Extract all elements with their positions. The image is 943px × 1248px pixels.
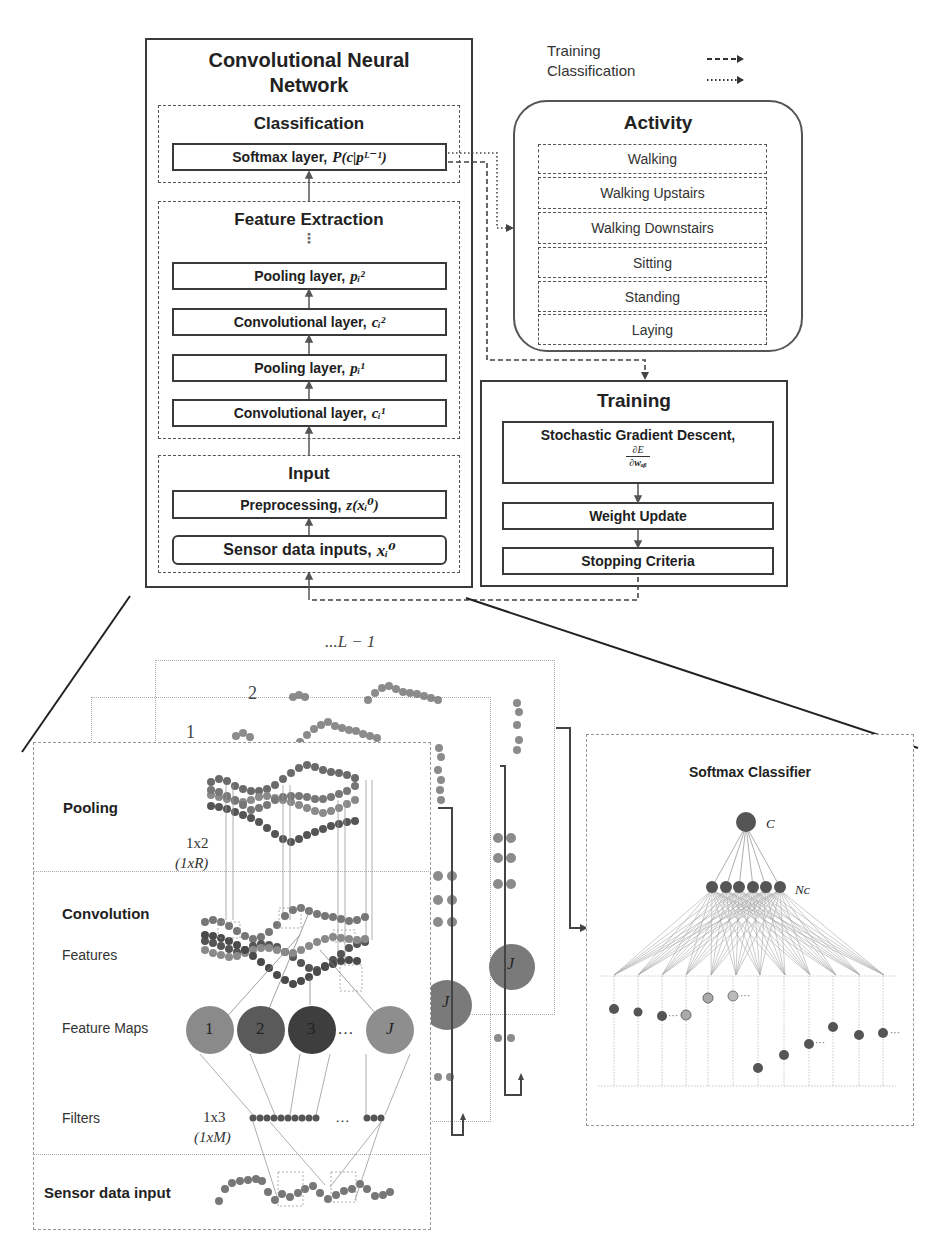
pooling-layer-1[interactable]: Pooling layer, pᵢ¹: [172, 354, 447, 382]
feature-map-ellipsis: …: [337, 1019, 354, 1039]
filters-ellipsis: …: [335, 1108, 350, 1125]
hidden-nodes-label: Nᴄ: [795, 882, 810, 898]
filters-label: Filters: [62, 1110, 100, 1126]
activity-walking[interactable]: Walking: [538, 144, 767, 174]
legend-arrows: [547, 42, 797, 92]
stacked-node-j-1: J: [507, 955, 514, 973]
pool-size-general-label: (1xR): [175, 855, 208, 872]
feature-maps-label: Feature Maps: [62, 1020, 148, 1036]
convolution-label: Convolution: [62, 905, 149, 922]
conv-layer-2[interactable]: Convolutional layer, cᵢ²: [172, 308, 447, 336]
filter-size-label: 1x3: [203, 1109, 226, 1126]
classification-title: Classification: [159, 114, 459, 134]
activity-walking-upstairs[interactable]: Walking Upstairs: [538, 177, 767, 209]
weight-update-box[interactable]: Weight Update: [502, 502, 774, 530]
softmax-classifier-panel: Softmax Classifier: [586, 734, 914, 1126]
sensor-data-input-label: Sensor data input: [44, 1184, 171, 1201]
sgd-box[interactable]: Stochastic Gradient Descent, ∂E ∂wₐᵦ: [502, 421, 774, 484]
pooling-label: Pooling: [63, 799, 118, 816]
input-title: Input: [159, 464, 459, 484]
feature-map-1: 1: [205, 1019, 214, 1039]
stack-label-first: 1: [186, 722, 195, 743]
conv-layer-1[interactable]: Convolutional layer, cᵢ¹: [172, 399, 447, 427]
stopping-criteria-box[interactable]: Stopping Criteria: [502, 547, 774, 575]
training-title: Training: [482, 390, 786, 412]
cnn-title: Convolutional Neural Network: [147, 48, 471, 98]
stack-label-second: 2: [248, 683, 257, 704]
pooling-layer-2[interactable]: Pooling layer, pᵢ²: [172, 262, 447, 290]
activity-standing[interactable]: Standing: [538, 281, 767, 312]
softmax-classifier-title: Softmax Classifier: [587, 764, 913, 780]
sgd-fraction: ∂E ∂wₐᵦ: [626, 444, 650, 469]
feature-map-j: J: [386, 1019, 394, 1039]
filter-size-general-label: (1xM): [194, 1129, 231, 1146]
output-node-label: C: [766, 816, 775, 832]
preprocessing-box[interactable]: Preprocessing, z(xᵢ⁰): [172, 490, 447, 519]
features-label: Features: [62, 947, 117, 963]
legend: Training Classification: [547, 42, 797, 92]
sgd-label: Stochastic Gradient Descent,: [504, 427, 772, 443]
feature-extraction-title: Feature Extraction: [159, 210, 459, 230]
pool-size-label: 1x2: [186, 835, 209, 852]
stacked-node-j-2: J: [442, 993, 449, 1011]
feature-map-2: 2: [256, 1019, 265, 1039]
activity-walking-downstairs[interactable]: Walking Downstairs: [538, 212, 767, 244]
vertical-ellipsis: ⋮: [159, 230, 459, 246]
sensor-inputs-box[interactable]: Sensor data inputs, xᵢ⁰: [172, 535, 447, 565]
softmax-layer-box[interactable]: Softmax layer, P(c|pᴸ⁻¹): [172, 143, 447, 171]
feature-map-3: 3: [307, 1019, 316, 1039]
activity-title: Activity: [515, 112, 801, 134]
stack-label-last: ...L − 1: [325, 632, 375, 652]
activity-sitting[interactable]: Sitting: [538, 247, 767, 278]
activity-laying[interactable]: Laying: [538, 314, 767, 345]
